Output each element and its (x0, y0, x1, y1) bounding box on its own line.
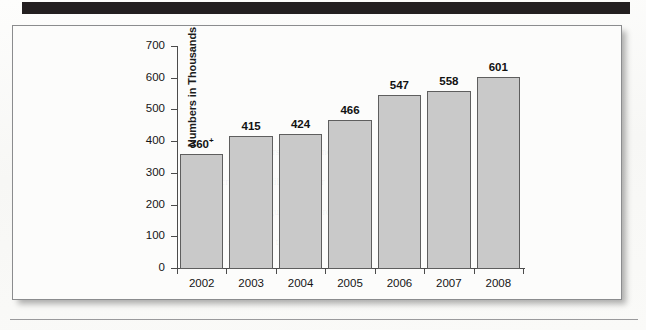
x-axis-tick-mark (226, 269, 227, 274)
y-axis-tick-mark (171, 236, 177, 237)
bar-2005 (328, 120, 371, 269)
y-axis-tick-mark (171, 173, 177, 174)
bar-2003 (229, 136, 272, 269)
bar-value-label-2006: 547 (372, 79, 426, 91)
bar-value-label-2004: 424 (274, 118, 328, 130)
header-black-band (22, 2, 630, 14)
x-axis-tick-mark (276, 269, 277, 274)
y-axis-tick-mark (171, 46, 177, 47)
y-axis-tick-label: 500 (131, 102, 165, 114)
y-axis-tick-label: 200 (131, 198, 165, 210)
x-axis-tick-mark (325, 269, 326, 274)
x-axis-tick-label-2004: 2004 (278, 277, 324, 289)
x-axis-tick-mark (375, 269, 376, 274)
bottom-horizontal-rule (10, 319, 638, 320)
x-axis-tick-label-2007: 2007 (426, 277, 472, 289)
y-axis-tick-mark (171, 78, 177, 79)
bar-2008 (477, 77, 520, 269)
y-axis-tick-mark (171, 205, 177, 206)
x-axis-tick-mark (177, 269, 178, 274)
y-axis-tick-label: 0 (131, 261, 165, 273)
x-axis-tick-mark (523, 269, 524, 274)
y-axis-tick-label: 600 (131, 71, 165, 83)
bar-2007 (427, 91, 470, 269)
y-axis-tick-mark (171, 109, 177, 110)
y-axis-tick-label: 300 (131, 166, 165, 178)
x-axis-tick-mark (424, 269, 425, 274)
bar-chart: Numbers in Thousands increased steadily … (13, 26, 621, 299)
bar-2004 (279, 134, 322, 269)
bar-2006 (378, 95, 421, 269)
y-axis-tick-label: 700 (131, 39, 165, 51)
y-axis-tick-label: 400 (131, 134, 165, 146)
chart-frame: Numbers in Thousands increased steadily … (12, 25, 622, 300)
bar-value-label-2008: 601 (471, 61, 525, 73)
x-axis-tick-label-2002: 2002 (179, 277, 225, 289)
y-axis-title: Numbers in Thousands (186, 2, 202, 172)
x-axis-tick-label-2008: 2008 (475, 277, 521, 289)
bar-value-label-2003: 415 (224, 120, 278, 132)
y-axis-tick-label: 100 (131, 229, 165, 241)
x-axis-tick-label-2006: 2006 (376, 277, 422, 289)
bar-value-label-2007: 558 (422, 75, 476, 87)
x-axis-tick-label-2003: 2003 (228, 277, 274, 289)
x-axis-tick-mark (474, 269, 475, 274)
y-axis-line (177, 46, 178, 269)
bar-value-label-2005: 466 (323, 104, 377, 116)
x-axis-tick-label-2005: 2005 (327, 277, 373, 289)
